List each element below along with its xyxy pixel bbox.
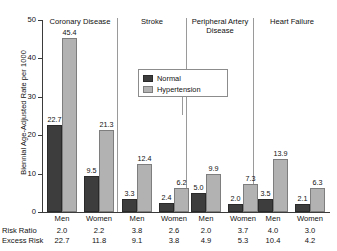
legend-label-normal: Normal [157,74,181,83]
bar-value-0-1-hypertension: 21.3 [93,121,120,129]
bar-0-1-hypertension [99,130,114,212]
legend-swatch-normal-icon [143,75,153,82]
bar-3-0-normal [258,199,273,212]
bar-chart: Biennial Age-Adjusted Rate per 1000 0102… [0,0,337,251]
bar-value-3-0-hypertension: 13.9 [267,150,294,158]
bar-value-2-0-hypertension: 9.9 [200,165,227,173]
bars-layer: 22.745.49.521.33.312.42.46.25.09.92.07.3… [0,0,337,212]
row-header-excess-risk: Excess Risk [2,236,43,245]
bar-2-0-normal [191,193,206,212]
bar-2-1-hypertension [243,184,258,212]
bar-0-1-normal [84,176,99,212]
bar-value-2-1-hypertension: 7.3 [237,175,264,183]
bar-3-1-normal [295,204,310,212]
row-header-risk-ratio: Risk Ratio [2,226,37,235]
bar-0-0-normal [47,125,62,212]
bar-1-0-normal [122,199,137,212]
bar-value-0-0-hypertension: 45.4 [56,29,83,37]
legend-label-hypertension: Hypertension [157,85,201,94]
category-label-3-women: Women [288,214,332,223]
bar-1-0-hypertension [137,164,152,212]
bar-2-1-normal [228,204,243,212]
legend: Normal Hypertension [138,69,228,97]
bar-value-1-0-hypertension: 12.4 [131,155,158,163]
x-axis-line [42,212,330,213]
legend-leader-line [182,97,183,115]
bar-3-1-hypertension [310,188,325,212]
bar-1-1-normal [159,203,174,212]
bar-3-0-hypertension [273,159,288,212]
bar-2-0-hypertension [206,174,221,212]
bar-0-0-hypertension [62,38,77,212]
cell-excess-risk-3-women: 4.2 [288,236,332,245]
y-tick-0 [38,212,42,213]
bar-value-3-1-hypertension: 6.3 [304,179,331,187]
legend-item-normal: Normal [143,73,223,84]
legend-item-hypertension: Hypertension [143,84,223,95]
cell-risk-ratio-3-women: 3.0 [288,226,332,235]
legend-swatch-hypertension-icon [143,86,153,93]
